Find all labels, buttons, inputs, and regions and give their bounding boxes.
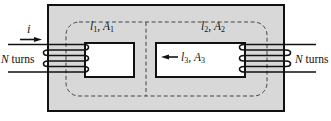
figure-canvas: i N turns N turns l1, A1 l2, A2 l3, A3 <box>0 0 331 121</box>
path1-area-subscript: 1 <box>110 25 114 34</box>
current-label: i <box>27 22 30 36</box>
flux-path2-label: l2, A2 <box>190 20 236 33</box>
path3-area-subscript: 3 <box>201 55 205 64</box>
figure-overlay-svg <box>0 0 331 121</box>
path3-area-symbol: A <box>194 51 201 63</box>
current-arrow-icon <box>20 37 42 42</box>
flux-path3-label: l3, A3 <box>181 51 205 64</box>
path2-area-symbol: A <box>214 20 221 32</box>
path2-area-subscript: 2 <box>221 25 225 34</box>
center-leg-arrow-icon <box>161 54 178 59</box>
right-winding-label: N turns <box>295 53 329 66</box>
path1-area-symbol: A <box>103 20 110 32</box>
left-winding-text: turns <box>9 53 35 65</box>
flux-path1-label: l1, A1 <box>79 20 125 33</box>
left-winding-symbol: N <box>1 53 9 65</box>
left-winding-label: N turns <box>1 53 35 66</box>
right-winding-symbol: N <box>295 53 303 65</box>
right-winding-text: turns <box>303 53 329 65</box>
